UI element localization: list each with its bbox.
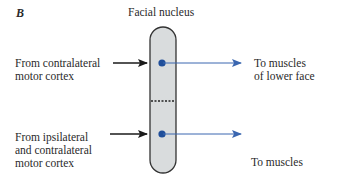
input-label-bilateral: From ipsilateral and contralateral motor… [15,131,92,170]
input-label-contralateral: From contralateral motor cortex [15,57,100,83]
output-label-lower-face: To muscles of lower face [254,57,315,83]
facial-nucleus [150,27,176,173]
output-label-upper-face: To muscles of upper face [251,130,315,184]
